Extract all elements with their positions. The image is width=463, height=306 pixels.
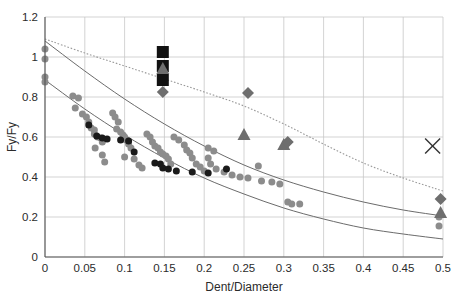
marker-triangle [434,206,447,218]
marker-circle [75,95,82,102]
x-tick-label: 0.3 [276,262,292,274]
x-tick-label: 0.1 [117,262,133,274]
y-tick-label: 0.6 [22,131,38,143]
x-tick-label: 0.5 [435,262,451,274]
marker-diamond [435,193,447,205]
marker-circle [258,178,265,185]
x-axis-title: Dent/Diameter [205,280,282,294]
marker-circle [189,155,196,162]
y-tick-label: 1.2 [22,11,38,23]
y-axis-title: Fy/Fy [5,122,19,152]
marker-circle [125,138,132,145]
axis-tick-labels: 00.050.10.150.20.250.30.350.40.450.500.2… [22,11,451,274]
x-tick-label: 0.45 [392,262,414,274]
x-tick-label: 0.15 [153,262,175,274]
marker-circle [205,155,212,162]
marker-circle [121,154,128,161]
marker-square [157,74,169,86]
y-tick-label: 0.4 [22,171,39,183]
x-tick-label: 0.2 [196,262,212,274]
y-tick-label: 0.2 [22,211,38,223]
marker-circle [85,122,92,129]
marker-circle [92,145,99,152]
marker-circle [104,136,111,143]
marker-circle [139,165,146,172]
marker-circle [101,159,108,166]
x-tick-label: 0.25 [233,262,255,274]
y-tick-label: 1 [32,51,38,63]
x-tick-label: 0.05 [74,262,96,274]
marker-circle [436,223,443,230]
marker-circle [223,166,230,173]
marker-circle [207,161,214,168]
marker-circle [288,201,295,208]
marker-triangle [238,128,251,140]
marker-x [425,139,440,154]
marker-circle [268,179,275,186]
marker-diamond [157,86,169,98]
marker-circle [115,119,122,126]
marker-circle [237,174,244,181]
marker-circle [255,163,262,170]
scatter-chart: 00.050.10.150.20.250.30.350.40.450.500.2… [0,0,463,306]
marker-circle [296,201,303,208]
marker-circle [205,170,212,177]
marker-circle [99,152,106,159]
y-tick-label: 0.8 [22,91,38,103]
marker-circle [131,156,138,163]
marker-circle [229,172,236,179]
x-tick-label: 0.35 [312,262,334,274]
marker-circle [117,137,124,144]
chart-canvas: 00.050.10.150.20.250.30.350.40.450.500.2… [0,0,463,306]
marker-circle [173,168,180,175]
x-tick-label: 0 [42,262,48,274]
marker-circle [72,105,79,112]
y-tick-label: 0 [32,251,38,263]
marker-circle [276,181,283,188]
marker-circle [165,166,172,173]
marker-square [157,46,169,58]
marker-circle [131,149,138,156]
marker-circle [210,148,217,155]
marker-circle [175,137,182,144]
marker-circle [244,175,251,182]
marker-circle [189,169,196,176]
x-tick-label: 0.4 [355,262,372,274]
marker-circle [213,166,220,173]
